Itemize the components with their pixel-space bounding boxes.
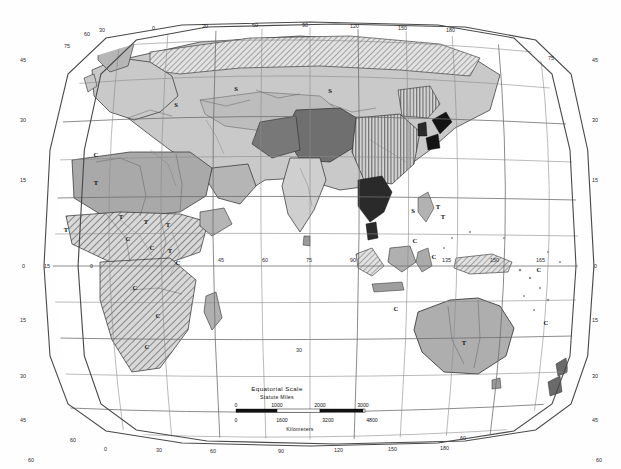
lat-left-4: 15 (20, 317, 26, 323)
climate-label-t-12: T (462, 339, 467, 346)
climate-label-c-20: C (413, 237, 418, 244)
map-body: 60 30 0 30 60 90 120 150 180 75 75 0 30 … (20, 22, 602, 463)
lon-top-8: 180 (446, 27, 455, 33)
scale-km-0: 0 (235, 417, 238, 423)
lon-bot-3: 90 (278, 448, 284, 454)
lon-bot-2: 60 (210, 448, 216, 454)
climate-label-s-0: S (174, 101, 178, 108)
lon-bot-0: 0 (104, 446, 107, 452)
climate-label-t-9: T (168, 247, 173, 254)
lon-eq-1: 0 (90, 263, 93, 269)
climate-label-s-3: S (411, 207, 415, 214)
climate-label-c-24: C (537, 266, 542, 273)
lon-top-6: 120 (350, 23, 359, 29)
world-climate-map: 60 30 0 30 60 90 120 150 180 75 75 0 30 … (0, 0, 621, 469)
scale-subtitle-miles: Statute Miles (260, 394, 294, 400)
lon-top-3: 30 (202, 23, 208, 29)
climate-label-s-1: S (234, 85, 238, 92)
lon-top-7: 150 (398, 25, 407, 31)
sri-lanka (303, 236, 310, 246)
scale-km-3: 4800 (366, 417, 378, 423)
climate-label-c-17: C (133, 284, 138, 291)
scale-km-1: 1600 (276, 417, 288, 423)
scale-mile-1: 1000 (271, 402, 283, 408)
lon-eq-6: 135 (442, 257, 451, 263)
lat-right-2: 15 (592, 177, 598, 183)
scale-title: Equatorial Scale (251, 385, 303, 392)
map-container: 60 30 0 30 60 90 120 150 180 75 75 0 30 … (0, 0, 621, 469)
climate-label-t-11: T (441, 213, 446, 220)
lat-interior-mid: 30 (296, 347, 302, 353)
malay-black (366, 222, 378, 240)
scale-mile-3: 3000 (357, 402, 369, 408)
lon-top-0: 60 (84, 31, 90, 37)
climate-label-c-14: C (126, 235, 131, 242)
lat-right-3: 0 (594, 263, 597, 269)
scale-km-2: 3200 (322, 417, 334, 423)
climate-label-t-5: T (64, 226, 69, 233)
climate-label-t-10: T (436, 203, 441, 210)
climate-label-t-7: T (144, 218, 149, 225)
lat-right-6: 45 (592, 417, 598, 423)
lon-bot-1: 30 (156, 447, 162, 453)
lat-left-1: 30 (20, 117, 26, 123)
scale-bar-graphic (236, 409, 365, 412)
climate-label-s-2: S (328, 87, 332, 94)
lon-top-2: 0 (152, 25, 155, 31)
lat-left-3: 0 (22, 263, 25, 269)
lat-right-0: 45 (592, 57, 598, 63)
lat-left-7: 60 (28, 457, 34, 463)
climate-label-c-21: C (432, 253, 437, 260)
korea (418, 122, 427, 136)
lat-right-4: 15 (592, 317, 598, 323)
lon-eq-2: 45 (218, 257, 224, 263)
climate-label-c-15: C (150, 244, 155, 251)
lat-corner-top-left: 75 (64, 43, 70, 49)
climate-label-c-19: C (145, 343, 150, 350)
scale-subtitle-km: Kilometers (286, 426, 314, 432)
lon-bot-5: 150 (388, 446, 397, 452)
lat-corner-top-right: 75 (548, 55, 554, 61)
lat-corner-bottom-right: 60 (460, 435, 466, 441)
lat-left-5: 30 (20, 373, 26, 379)
climate-label-c-18: C (156, 312, 161, 319)
lon-top-5: 90 (302, 22, 308, 28)
lat-left-6: 45 (20, 417, 26, 423)
scale-mile-0: 0 (235, 402, 238, 408)
climate-label-c-23: C (544, 319, 549, 326)
climate-label-t-4: T (94, 179, 99, 186)
lat-left-0: 45 (20, 57, 26, 63)
lon-bot-6: 180 (440, 445, 449, 451)
lon-top-4: 60 (252, 22, 258, 28)
lon-eq-5: 90 (350, 257, 356, 263)
lon-eq-8: 165 (536, 257, 545, 263)
lat-right-5: 30 (592, 373, 598, 379)
climate-label-t-6: T (119, 213, 124, 220)
latitude-labels-left: 45 30 15 0 15 30 45 60 (20, 57, 34, 463)
lon-eq-4: 75 (306, 257, 312, 263)
java (372, 282, 404, 292)
lat-right-1: 30 (592, 117, 598, 123)
lat-corner-bottom-left: 60 (70, 437, 76, 443)
lat-left-2: 15 (20, 177, 26, 183)
climate-label-c-13: C (94, 151, 99, 158)
lon-eq-3: 60 (262, 257, 268, 263)
climate-label-t-8: T (166, 221, 171, 228)
lon-bot-4: 120 (334, 447, 343, 453)
lon-top-1: 30 (99, 27, 105, 33)
lon-eq-7: 150 (490, 257, 499, 263)
lat-right-7: 60 (596, 457, 602, 463)
climate-label-c-16: C (176, 259, 181, 266)
climate-label-c-22: C (394, 305, 399, 312)
scale-mile-2: 2000 (314, 402, 326, 408)
lon-eq-0: 15 (44, 263, 50, 269)
